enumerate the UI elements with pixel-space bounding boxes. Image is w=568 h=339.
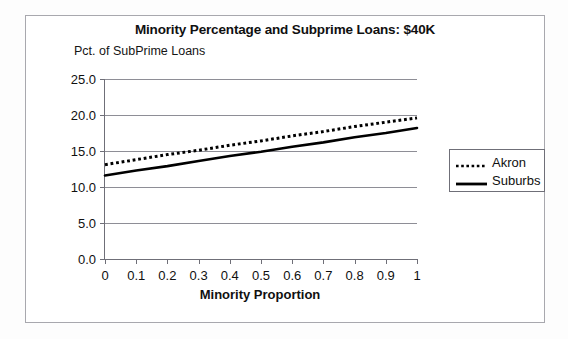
- plot-area: 0.05.010.015.020.025.0 00.10.20.30.40.50…: [104, 79, 417, 260]
- legend-label-suburbs: Suburbs: [492, 173, 540, 188]
- x-tick-mark: [261, 259, 262, 264]
- x-tick-label: 0.3: [190, 268, 208, 283]
- x-tick-label: 0.8: [346, 268, 364, 283]
- chart-legend: Akron Suburbs: [449, 149, 545, 192]
- legend-item-suburbs: Suburbs: [455, 171, 540, 189]
- x-tick-mark: [167, 259, 168, 264]
- x-tick-label: 0: [101, 268, 108, 283]
- x-tick-mark: [386, 259, 387, 264]
- x-tick-mark: [230, 259, 231, 264]
- series-line-suburbs: [105, 128, 417, 176]
- x-tick-label: 0.5: [252, 268, 270, 283]
- chart-frame: Minority Percentage and Subprime Loans: …: [25, 15, 545, 323]
- x-tick-mark: [199, 259, 200, 264]
- legend-swatch-solid-icon: [455, 175, 488, 185]
- chart-title: Minority Percentage and Subprime Loans: …: [26, 22, 544, 37]
- y-axis-subtitle: Pct. of SubPrime Loans: [74, 44, 205, 58]
- x-tick-mark: [355, 259, 356, 264]
- legend-swatch-dotted-icon: [455, 157, 488, 167]
- y-tick-label: 20.0: [71, 108, 96, 123]
- series-plot: [105, 79, 417, 259]
- x-tick-mark: [292, 259, 293, 264]
- x-axis-title: Minority Proportion: [104, 287, 416, 302]
- x-tick-label: 0.2: [158, 268, 176, 283]
- y-tick-label: 25.0: [71, 72, 96, 87]
- y-tick-label: 5.0: [78, 216, 96, 231]
- x-tick-label: 0.7: [314, 268, 332, 283]
- x-tick-label: 0.6: [283, 268, 301, 283]
- y-tick-label: 15.0: [71, 144, 96, 159]
- x-tick-label: 0.4: [221, 268, 239, 283]
- x-tick-mark: [417, 259, 418, 264]
- y-tick-label: 10.0: [71, 180, 96, 195]
- series-line-akron: [105, 118, 417, 165]
- legend-label-akron: Akron: [492, 155, 526, 170]
- x-tick-label: 0.1: [127, 268, 145, 283]
- x-tick-label: 1: [413, 268, 420, 283]
- screenshot-canvas: Minority Percentage and Subprime Loans: …: [0, 0, 568, 339]
- x-tick-mark: [105, 259, 106, 264]
- legend-item-akron: Akron: [455, 153, 540, 171]
- y-tick-label: 0.0: [78, 252, 96, 267]
- x-tick-label: 0.9: [377, 268, 395, 283]
- x-tick-mark: [136, 259, 137, 264]
- x-tick-mark: [323, 259, 324, 264]
